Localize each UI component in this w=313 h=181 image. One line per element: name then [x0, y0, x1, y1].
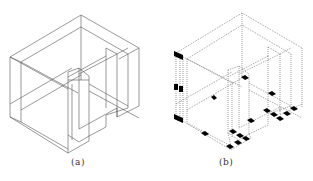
marker-icon	[226, 144, 234, 149]
marker-icon	[174, 84, 178, 90]
panel-b-wireframe: (b)	[156, 0, 313, 160]
marker-icon	[268, 91, 276, 96]
caption-b: (b)	[219, 157, 233, 167]
marker-icon	[174, 114, 183, 123]
marker-icon	[276, 116, 284, 121]
marker-icon	[234, 140, 242, 145]
marker-icon	[236, 133, 244, 138]
marker-icon	[201, 131, 209, 136]
panel-a-wireframe: (a)	[0, 0, 156, 160]
marker-icon	[179, 86, 183, 92]
caption-a: (a)	[71, 157, 85, 167]
wireframe-solid-drawing	[0, 0, 156, 160]
marker-icon	[242, 136, 250, 141]
marker-icon	[247, 118, 255, 123]
marker-icon	[229, 129, 237, 134]
marker-icon	[174, 51, 183, 60]
marker-icon	[270, 112, 278, 117]
wireframe-dotted-drawing	[156, 0, 313, 160]
